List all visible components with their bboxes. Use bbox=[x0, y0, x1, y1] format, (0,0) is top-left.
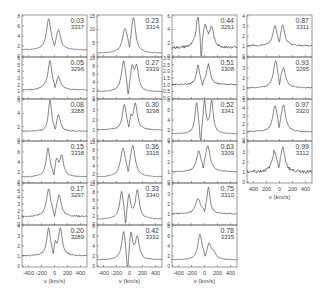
y-tick-label: 6 bbox=[167, 107, 170, 113]
phase-label: 0.03 bbox=[70, 17, 84, 24]
phase-label: 0.78 bbox=[220, 227, 234, 234]
y-tick-label: 3 bbox=[167, 149, 170, 155]
x-tick-label: 400 bbox=[76, 270, 85, 276]
spectrum-id-label: 3296 bbox=[71, 66, 85, 72]
y-tick-label: 4 bbox=[92, 243, 95, 249]
phase-label: 0.17 bbox=[70, 185, 84, 192]
y-tick-label: 2 bbox=[92, 213, 95, 219]
y-tick-label: 2 bbox=[167, 159, 170, 165]
x-tick-label: 400 bbox=[249, 186, 258, 192]
y-tick-label: 6 bbox=[92, 233, 95, 239]
y-tick-label: 5 bbox=[17, 62, 20, 68]
y-tick-label: 2 bbox=[167, 253, 170, 259]
y-tick-label: 4 bbox=[17, 33, 20, 39]
y-tick-label: 6 bbox=[17, 149, 20, 155]
phase-label: 0.51 bbox=[220, 59, 234, 66]
spectrum-id-label: 3310 bbox=[221, 192, 235, 198]
y-tick-label: 4 bbox=[167, 117, 170, 123]
x-tick-label: -400 bbox=[23, 270, 34, 276]
y-tick-label: 2 bbox=[167, 40, 170, 46]
y-tick-label: 4 bbox=[167, 181, 170, 187]
y-tick-label: 1.0 bbox=[163, 82, 170, 88]
y-tick-label: 3 bbox=[242, 65, 245, 71]
x-tick-label: 200 bbox=[288, 186, 297, 192]
y-tick-label: 6 bbox=[92, 155, 95, 161]
spectrum-id-label: 3297 bbox=[71, 192, 85, 198]
x-tick-label: -200 bbox=[111, 270, 122, 276]
y-tick-label: 4 bbox=[17, 110, 20, 116]
spectrum-id-label: 3291 bbox=[221, 24, 235, 30]
y-tick-label: 10 bbox=[89, 55, 95, 61]
y-tick-label: 5 bbox=[17, 188, 20, 194]
y-tick-label: 4 bbox=[92, 97, 95, 103]
phase-label: 0.93 bbox=[295, 59, 309, 66]
x-axis-label: v (km/s) bbox=[119, 278, 140, 284]
y-tick-label: 1 bbox=[17, 88, 20, 94]
x-tick-label: -200 bbox=[186, 270, 197, 276]
phase-label: 0.15 bbox=[70, 143, 84, 150]
y-tick-label: 2 bbox=[17, 208, 20, 214]
spectrum-id-label: 3295 bbox=[296, 66, 310, 72]
y-tick-label: 2.5 bbox=[163, 62, 170, 68]
y-tick-label: 8 bbox=[92, 63, 95, 69]
y-tick-label: 4 bbox=[167, 243, 170, 249]
y-tick-label: 2 bbox=[242, 121, 245, 127]
y-tick-label: 1 bbox=[17, 214, 20, 220]
y-tick-label: 2 bbox=[17, 43, 20, 49]
y-tick-label: 8 bbox=[167, 97, 170, 103]
y-tick-label: 8 bbox=[167, 223, 170, 229]
y-tick-label: 1 bbox=[242, 85, 245, 91]
phase-label: 0.33 bbox=[145, 185, 159, 192]
y-tick-label: 6 bbox=[17, 181, 20, 187]
y-tick-label: 6 bbox=[167, 13, 170, 19]
y-tick-label: 5 bbox=[242, 97, 245, 103]
spectrum-id-label: 3288 bbox=[71, 108, 85, 114]
y-tick-label: 0 bbox=[92, 263, 95, 269]
x-tick-label: -200 bbox=[36, 270, 47, 276]
y-tick-label: 3 bbox=[242, 113, 245, 119]
phase-label: 0.42 bbox=[145, 227, 159, 234]
spectrum-id-label: 3337 bbox=[71, 24, 85, 30]
x-tick-label: 200 bbox=[138, 270, 147, 276]
y-tick-label: 1 bbox=[242, 43, 245, 49]
y-tick-label: 3 bbox=[17, 233, 20, 239]
spectrum-id-label: 3320 bbox=[296, 108, 310, 114]
y-tick-label: 0.5 bbox=[163, 88, 170, 94]
y-tick-label: 1 bbox=[242, 169, 245, 175]
y-tick-label: 6 bbox=[92, 71, 95, 77]
y-tick-label: 2 bbox=[242, 33, 245, 39]
spectrum-id-label: 3332 bbox=[146, 234, 160, 240]
y-tick-label: 2 bbox=[17, 124, 20, 130]
y-tick-label: 4 bbox=[167, 139, 170, 145]
x-tick-label: 0 bbox=[128, 270, 131, 276]
y-tick-label: 4 bbox=[17, 159, 20, 165]
y-tick-label: 10 bbox=[89, 139, 95, 145]
spectrum-id-label: 3309 bbox=[221, 150, 235, 156]
y-tick-label: 3 bbox=[242, 149, 245, 155]
y-tick-label: 6 bbox=[92, 197, 95, 203]
y-tick-label: 4 bbox=[92, 163, 95, 169]
y-tick-label: 2 bbox=[167, 127, 170, 133]
x-tick-label: -400 bbox=[173, 270, 184, 276]
y-tick-label: 8 bbox=[92, 189, 95, 195]
phase-label: 0.99 bbox=[295, 143, 309, 150]
x-tick-label: -400 bbox=[98, 270, 109, 276]
y-tick-label: 2 bbox=[92, 87, 95, 93]
phase-label: 0.08 bbox=[70, 101, 84, 108]
spectrum-id-label: 3311 bbox=[296, 24, 310, 30]
y-tick-label: 4 bbox=[242, 139, 245, 145]
y-tick-label: 6 bbox=[17, 23, 20, 29]
y-tick-label: 4 bbox=[242, 55, 245, 61]
y-tick-label: 4 bbox=[242, 105, 245, 111]
x-axis-label: v (km/s) bbox=[44, 278, 65, 284]
phase-label: 0.20 bbox=[70, 227, 84, 234]
x-tick-label: 200 bbox=[213, 270, 222, 276]
x-tick-label: 0 bbox=[53, 270, 56, 276]
y-tick-label: 4 bbox=[17, 223, 20, 229]
y-tick-label: 2 bbox=[242, 75, 245, 81]
x-axis-label: v (km/s) bbox=[194, 278, 215, 284]
y-tick-label: 0 bbox=[17, 263, 20, 269]
phase-label: 0.87 bbox=[295, 17, 309, 24]
y-tick-label: 8 bbox=[92, 223, 95, 229]
y-tick-label: 3 bbox=[167, 191, 170, 197]
